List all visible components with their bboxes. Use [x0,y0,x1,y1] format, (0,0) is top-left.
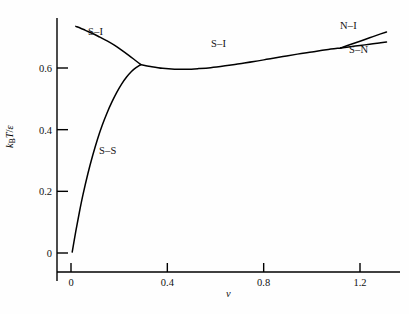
y-axis-label: kBT/ε [4,125,17,148]
plot-area [0,0,409,314]
y-tick-label-0: 0 [18,248,52,259]
x-tick-label-2: 0.8 [257,277,270,288]
y-label-k: k [4,143,15,148]
curve-label-n-i: N–I [340,20,357,31]
y-label-eps: ε [4,125,15,129]
y-tick-label-2: 0.4 [18,124,52,135]
curve-label-s-n: S–N [349,44,368,55]
curve-label-s-s: S–S [99,145,117,156]
y-tick-label-3: 0.6 [18,63,52,74]
phase-diagram-figure: kBT/ε ν 00.20.40.600.40.81.2S–IS–IS–SN–I… [0,0,409,314]
curve-s-s [72,65,141,252]
y-label-T: T [4,132,15,138]
x-tick-label-1: 0.4 [161,277,174,288]
x-tick-label-0: 0 [68,277,73,288]
x-tick-label-3: 1.2 [353,277,366,288]
curve-label-s-i-middle: S–I [211,38,226,49]
y-label-sub: B [8,138,17,143]
curve-s-i-middle-branch [141,48,341,69]
curve-label-s-i-upper: S–I [88,26,103,37]
curve-s-i-upper-branch [76,26,141,64]
x-axis-label: ν [226,288,231,299]
y-tick-label-1: 0.2 [18,186,52,197]
